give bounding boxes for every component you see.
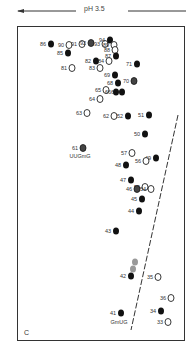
spot-90: 90: [58, 42, 72, 49]
svg-text:91: 91: [71, 41, 77, 47]
svg-text:82: 82: [85, 58, 91, 64]
svg-text:68: 68: [107, 80, 113, 86]
spot-51: 51: [138, 112, 152, 119]
svg-text:41: 41: [110, 310, 116, 316]
svg-text:35: 35: [147, 274, 153, 280]
svg-text:64: 64: [89, 96, 95, 102]
spot-42g1: [132, 259, 138, 266]
spot-41: 41: [110, 310, 124, 317]
spot-35: 35: [147, 274, 161, 281]
spot-48: 48: [115, 162, 129, 169]
svg-text:70: 70: [123, 78, 129, 84]
spot-36: 36: [160, 295, 174, 302]
spot-62: 62: [103, 113, 117, 120]
spot-82: 82: [85, 58, 99, 65]
spot-56: 56: [135, 158, 149, 165]
svg-text:48: 48: [115, 162, 121, 168]
spot-42: 42: [120, 273, 134, 280]
spot-85: 85: [57, 50, 71, 57]
spot-42g2: [130, 266, 136, 273]
spot-44: 44: [128, 208, 142, 215]
svg-text:34: 34: [150, 308, 156, 314]
spot-71: 71: [126, 61, 140, 68]
svg-text:63: 63: [76, 110, 82, 116]
spot-64: 64: [89, 96, 103, 103]
svg-text:85: 85: [57, 50, 63, 56]
svg-text:56: 56: [135, 158, 141, 164]
spot-52: 52: [117, 113, 131, 120]
svg-text:54: 54: [140, 186, 146, 192]
svg-text:65: 65: [95, 87, 101, 93]
spot-57: 57: [121, 150, 135, 157]
svg-text:81: 81: [61, 65, 67, 71]
svg-text:50: 50: [134, 131, 140, 137]
svg-text:51: 51: [138, 112, 144, 118]
svg-text:42: 42: [120, 273, 126, 279]
spot-33: 33: [157, 319, 171, 326]
spot-43: 43: [105, 228, 119, 235]
spot-92: 92: [80, 40, 94, 47]
svg-text:69: 69: [104, 72, 110, 78]
spot-61: 61: [72, 145, 86, 152]
spot-83: 83: [89, 65, 103, 72]
svg-text:33: 33: [157, 319, 163, 325]
svg-text:47: 47: [120, 177, 126, 183]
svg-text:66: 66: [105, 89, 111, 95]
annotation-uugmg: UUGmG: [69, 153, 90, 159]
spot-47: 47: [120, 177, 134, 184]
spot-34: 34: [150, 308, 164, 315]
svg-text:52: 52: [117, 113, 123, 119]
annotation-gmug: GmUG: [110, 319, 127, 325]
svg-text:57: 57: [121, 150, 127, 156]
svg-text:83: 83: [89, 65, 95, 71]
svg-text:61: 61: [72, 145, 78, 151]
svg-text:36: 36: [160, 295, 166, 301]
spot-70: 70: [123, 78, 137, 85]
spot-map: 8690919293948988878582847181836968706567…: [0, 0, 194, 357]
svg-text:44: 44: [128, 208, 134, 214]
spot-45: 45: [131, 196, 145, 203]
spot-68: 68: [107, 80, 121, 87]
svg-text:90: 90: [58, 42, 64, 48]
svg-text:86: 86: [40, 41, 46, 47]
spot-69: 69: [104, 72, 118, 79]
svg-text:43: 43: [105, 228, 111, 234]
svg-text:62: 62: [103, 113, 109, 119]
spot-50: 50: [134, 131, 148, 138]
spot-81: 81: [61, 65, 75, 72]
svg-text:92: 92: [80, 40, 86, 46]
svg-text:46: 46: [126, 186, 132, 192]
svg-text:45: 45: [131, 196, 137, 202]
spot-86: 86: [40, 41, 54, 48]
svg-text:84: 84: [98, 58, 104, 64]
svg-text:71: 71: [126, 61, 132, 67]
spot-63: 63: [76, 110, 90, 117]
panel-label: C: [24, 329, 29, 336]
